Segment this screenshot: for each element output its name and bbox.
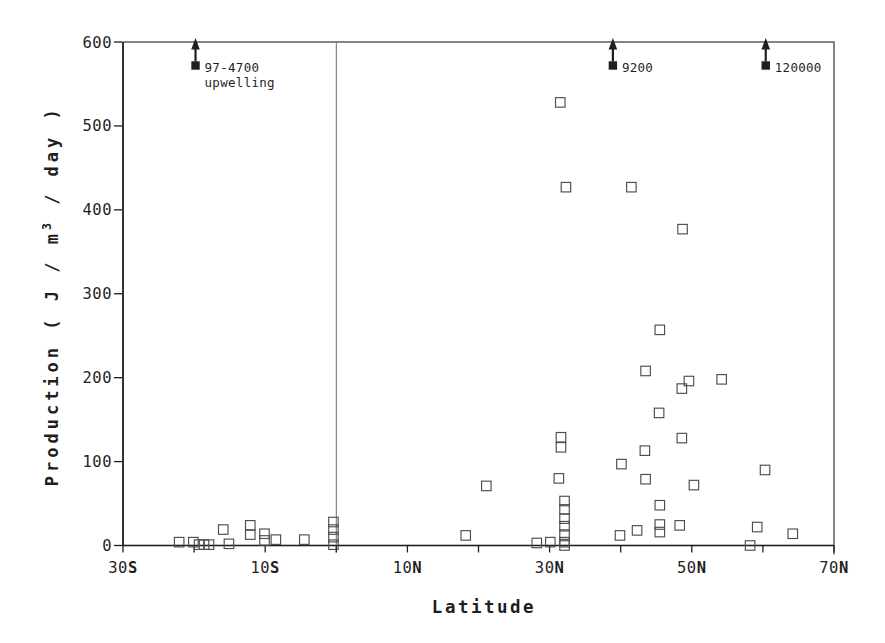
data-point-square (246, 521, 256, 531)
data-point-square (632, 526, 642, 536)
offscale-label: upwelling (205, 75, 275, 90)
data-point-square (752, 522, 762, 532)
production-vs-latitude-chart: 010020030040050060030S10S10N30N50N70N97-… (0, 0, 885, 643)
data-point-square (260, 529, 270, 539)
offscale-marker-square (762, 61, 770, 69)
y-tick-label: 100 (83, 453, 113, 471)
data-point-square (760, 465, 770, 475)
offscale-label: 120000 (775, 60, 822, 75)
y-axis-title: Production ( J / m3 / day ) (40, 105, 62, 486)
data-point-square (219, 525, 229, 535)
data-point-square (556, 98, 566, 108)
data-point-square (641, 366, 651, 376)
up-arrow-icon (761, 38, 770, 50)
offscale-marker: 97-4700upwelling (191, 38, 275, 91)
scatter-plot-figure: 010020030040050060030S10S10N30N50N70N97-… (0, 0, 885, 643)
y-tick-label: 0 (102, 537, 112, 555)
x-tick-label: 70N (819, 559, 849, 577)
data-point-square (246, 530, 256, 540)
x-tick-label: 30N (535, 559, 565, 577)
data-point-square (675, 521, 685, 531)
y-axis-title-text: Production ( J / m3 / day ) (40, 105, 62, 486)
offscale-marker-square (609, 61, 617, 69)
data-point-square (641, 474, 651, 484)
offscale-label: 9200 (622, 60, 653, 75)
x-tick-label: 10N (393, 559, 423, 577)
data-point-square (224, 539, 234, 549)
up-arrow-icon (609, 38, 618, 50)
data-point-square (260, 536, 270, 546)
data-point-square (556, 432, 566, 442)
x-tick-label: 30S (108, 559, 138, 577)
offscale-marker: 120000 (761, 38, 821, 75)
data-point-square (678, 224, 688, 234)
data-point-square (677, 433, 687, 443)
data-point-square (561, 182, 571, 192)
data-point-square (654, 408, 664, 418)
data-point-square (461, 531, 471, 541)
data-point-square (482, 481, 492, 491)
data-point-square (655, 500, 665, 510)
up-arrow-icon (191, 38, 200, 50)
data-point-square (640, 446, 650, 456)
offscale-marker: 9200 (609, 38, 654, 75)
x-tick-label: 50N (677, 559, 707, 577)
data-point-square (689, 480, 699, 490)
data-point-square (271, 535, 281, 545)
x-axis-title: Latitude (432, 597, 536, 617)
data-point-square (300, 535, 310, 545)
offscale-marker-square (191, 61, 199, 69)
data-point-square (627, 182, 637, 192)
y-tick-label: 600 (83, 34, 113, 52)
plot-frame (123, 42, 834, 546)
data-point-square (532, 538, 542, 548)
data-point-square (554, 474, 564, 484)
y-tick-label: 300 (83, 285, 113, 303)
data-point-square (655, 325, 665, 335)
y-tick-label: 200 (83, 369, 113, 387)
data-point-square (617, 459, 627, 469)
y-tick-label: 400 (83, 201, 113, 219)
data-point-square (615, 531, 625, 541)
data-point-square (717, 375, 727, 385)
data-point-square (556, 443, 566, 453)
offscale-label: 97-4700 (205, 60, 260, 75)
y-tick-label: 500 (83, 117, 113, 135)
x-tick-label: 10S (250, 559, 280, 577)
data-point-square (788, 529, 798, 539)
